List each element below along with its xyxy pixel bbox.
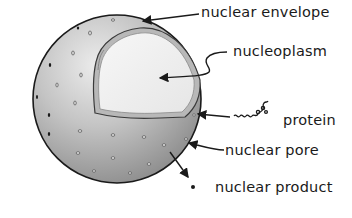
nucleus-diagram: nuclear envelope nucleoplasm protein nuc… bbox=[0, 0, 352, 218]
label-nuclear-envelope: nuclear envelope bbox=[201, 5, 330, 20]
label-nuclear-product: nuclear product bbox=[215, 180, 333, 195]
nuclear-product-dot bbox=[191, 185, 195, 189]
nuclear-pore-pointer bbox=[189, 143, 224, 150]
protein-chain-icon bbox=[234, 101, 268, 117]
label-nucleoplasm: nucleoplasm bbox=[233, 44, 327, 59]
label-nuclear-pore: nuclear pore bbox=[225, 143, 319, 158]
protein-pointer bbox=[198, 114, 230, 117]
label-protein: protein bbox=[283, 113, 336, 128]
nuclear-envelope-pointer bbox=[143, 14, 199, 21]
nuclear-envelope-cutaway bbox=[94, 28, 201, 118]
